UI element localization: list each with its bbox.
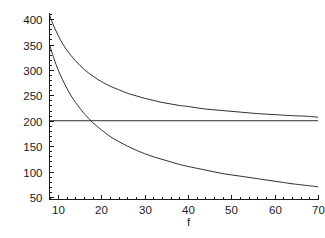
x-tick-label: 50 bbox=[225, 204, 238, 216]
x-tick-label: 10 bbox=[52, 204, 65, 216]
x-tick-label: 20 bbox=[95, 204, 108, 216]
y-tick-label: 200 bbox=[23, 116, 42, 128]
y-tick-label: 150 bbox=[23, 141, 42, 153]
y-tick-label: 50 bbox=[30, 192, 43, 204]
y-tick-label: 250 bbox=[23, 90, 42, 102]
y-tick-label: 350 bbox=[23, 40, 42, 52]
x-tick-label: 70 bbox=[312, 204, 325, 216]
y-tick-label: 400 bbox=[23, 14, 42, 26]
line-chart-plot: 10203040506070 50100150200250300350400 f bbox=[0, 0, 325, 238]
x-tick-label: 60 bbox=[269, 204, 282, 216]
y-tick-label: 300 bbox=[23, 65, 42, 77]
chart-background bbox=[0, 0, 325, 238]
x-tick-label: 30 bbox=[139, 204, 152, 216]
x-tick-label: 40 bbox=[182, 204, 195, 216]
chart-figure: 10203040506070 50100150200250300350400 f bbox=[0, 0, 325, 238]
y-tick-label: 100 bbox=[23, 167, 42, 179]
